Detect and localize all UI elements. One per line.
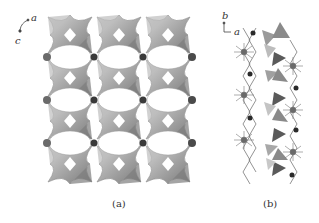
axis-label-a-b: a [234,27,240,37]
framework-structure-a [0,0,210,223]
chain-structure-b [210,0,319,223]
caption-b: (b) [263,199,277,209]
caption-a: (a) [112,199,126,209]
axis-label-c: c [15,36,21,46]
axis-indicator-b [223,22,231,32]
axis-label-a: a [31,13,37,23]
panel-b: b a (b) [210,0,319,223]
panel-a: a c (a) [0,0,210,223]
axis-label-b: b [222,11,228,21]
channels [49,45,189,155]
axis-indicator-a [19,19,29,32]
tetrahedra [262,22,290,176]
